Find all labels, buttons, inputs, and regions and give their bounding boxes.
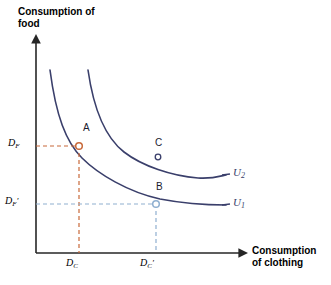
data-point-b-marker (153, 201, 160, 208)
indifference-curve-u1 (50, 70, 226, 205)
curve-label-u1-base: U (233, 196, 241, 208)
y-tick-label-df: DF (8, 137, 20, 150)
curve-label-u1-sub: 1 (241, 201, 245, 210)
curve-label-u2-base: U (233, 166, 241, 178)
curve-label-u2-sub: 2 (241, 171, 245, 180)
curve-label-leader-u2 (222, 174, 230, 175)
data-point-a-marker (76, 143, 83, 150)
curve-label-u1: U1 (233, 196, 245, 210)
data-point-label-a: A (83, 122, 90, 133)
curve-label-leader-u1 (222, 204, 230, 205)
tick-dc-sub: C (73, 262, 78, 270)
tick-df-sub: F (15, 142, 19, 150)
y-axis-title: Consumption of food (18, 6, 95, 30)
curve-label-u2: U2 (233, 166, 245, 180)
y-tick-label-df-prime: DF′ (5, 195, 18, 208)
tick-dcp-prime: ′ (152, 258, 154, 268)
indifference-curve-figure: Consumption of food Consumption of cloth… (0, 0, 331, 285)
x-axis-title: Consumption of clothing (252, 245, 316, 269)
x-tick-label-dc-prime: DC′ (140, 257, 154, 270)
data-point-label-c: C (155, 137, 162, 148)
data-point-label-b: B (156, 181, 163, 192)
tick-dfp-prime: ′ (17, 196, 19, 206)
indifference-curve-u2 (88, 70, 226, 178)
plot-area (0, 0, 331, 285)
x-tick-label-dc: DC (66, 257, 78, 270)
data-point-c-marker (155, 154, 161, 160)
